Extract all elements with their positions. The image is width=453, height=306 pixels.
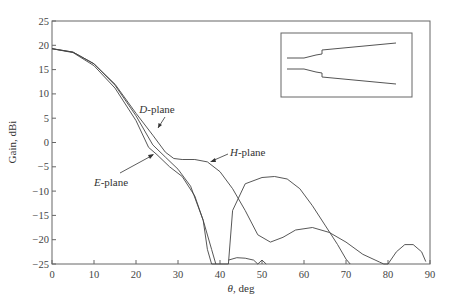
annotation-h-plane: H-plane — [210, 146, 266, 162]
x-tick-label: 20 — [131, 269, 142, 280]
svg-text:D-plane: D-plane — [138, 103, 175, 115]
y-tick-label: 25 — [39, 16, 50, 27]
y-tick-label: 10 — [39, 88, 50, 99]
y-tick-label: 15 — [39, 64, 50, 75]
y-tick-label: −5 — [38, 161, 49, 172]
y-tick-label: −20 — [33, 234, 49, 245]
y-tick-label: −25 — [33, 259, 49, 270]
svg-text:H-plane: H-plane — [229, 146, 266, 158]
y-axis-label: Gain, dBi — [6, 121, 18, 164]
y-tick-label: 0 — [44, 137, 49, 148]
y-tick-label: 20 — [39, 40, 50, 51]
x-tick-label: 50 — [257, 269, 268, 280]
x-tick-label: 40 — [215, 269, 226, 280]
y-tick-label: −10 — [33, 186, 49, 197]
x-axis-label: θ, deg — [228, 282, 255, 294]
x-tick-label: 70 — [341, 269, 352, 280]
x-axis: 0102030405060708090 — [49, 260, 435, 280]
x-tick-label: 0 — [49, 269, 54, 280]
series-d-plane — [52, 49, 216, 264]
svg-text:E-plane: E-plane — [93, 176, 128, 188]
inset-horn-profile — [281, 33, 412, 97]
x-tick-label: 60 — [299, 269, 310, 280]
series-e-plane-minor-lobes — [228, 258, 266, 264]
x-tick-label: 80 — [383, 269, 394, 280]
x-tick-label: 10 — [89, 269, 100, 280]
annotation-d-plane: D-plane — [138, 103, 175, 128]
annotation-e-plane: E-plane — [93, 154, 154, 188]
x-tick-label: 30 — [173, 269, 184, 280]
x-tick-label: 90 — [425, 269, 436, 280]
chart: 2520151050−5−10−15−20−25 010203040506070… — [0, 0, 453, 306]
y-tick-label: −15 — [33, 210, 49, 221]
y-tick-label: 5 — [44, 113, 49, 124]
